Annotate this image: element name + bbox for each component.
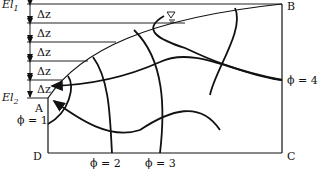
flow-net-diagram: Δz Δz Δz Δz Δz El1 El2 A B C D ϕ = 1 ϕ =…: [0, 0, 318, 172]
delta-z-label: Δz: [37, 8, 51, 21]
delta-z-label: Δz: [37, 65, 51, 78]
corner-label-c: C: [287, 150, 295, 163]
phi-4-label: ϕ = 4: [287, 74, 318, 87]
delta-z-label: Δz: [37, 83, 51, 96]
delta-z-label: Δz: [37, 46, 51, 59]
delta-z-labels: Δz Δz Δz Δz Δz: [37, 8, 51, 96]
phi-2-label: ϕ = 2: [90, 157, 121, 170]
equipotential-lines: [48, 8, 237, 153]
elevation-label-bottom: El2: [1, 91, 19, 106]
elevation-lines: [27, 4, 282, 98]
streamlines: [52, 16, 282, 133]
delta-z-label: Δz: [37, 27, 51, 40]
phi-3-label: ϕ = 3: [145, 157, 176, 170]
elevation-label-top: El1: [1, 0, 19, 13]
corner-label-d: D: [33, 150, 42, 163]
phi-1-label: ϕ = 1: [17, 114, 48, 127]
corner-label-b: B: [287, 0, 295, 13]
water-table-icon: [167, 12, 175, 22]
domain-boundary: [48, 4, 282, 153]
